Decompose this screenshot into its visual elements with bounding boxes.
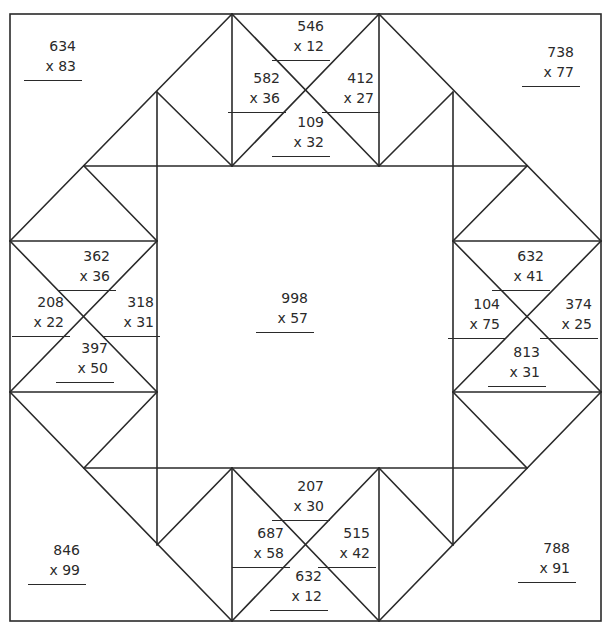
multiplier: x 27 (320, 88, 380, 108)
multiplicand: 208 (10, 292, 70, 312)
multiplicand: 362 (56, 246, 116, 266)
answer-line (24, 80, 82, 81)
problem-right-right: 374x 25 (538, 294, 598, 339)
multiplier: x 42 (316, 543, 376, 563)
answer-line (488, 386, 546, 387)
multiplier: x 31 (100, 312, 160, 332)
problem-bottom-right: 515x 42 (316, 523, 376, 568)
multiplicand: 104 (446, 294, 506, 314)
problem-bottom-bottom: 632x 12 (268, 566, 328, 611)
multiplicand: 207 (270, 476, 330, 496)
answer-line (540, 338, 598, 339)
multiplier: x 36 (56, 266, 116, 286)
multiplicand: 846 (26, 540, 86, 560)
problem-left-left: 208x 22 (10, 292, 70, 337)
answer-line (12, 336, 70, 337)
answer-line (492, 290, 550, 291)
multiplier: x 12 (268, 586, 328, 606)
multiplicand: 634 (22, 36, 82, 56)
answer-line (448, 338, 506, 339)
answer-line (322, 112, 380, 113)
problem-right-bottom: 813x 31 (486, 342, 546, 387)
multiplier: x 22 (10, 312, 70, 332)
multiplier: x 99 (26, 560, 86, 580)
answer-line (102, 336, 160, 337)
multiplicand: 318 (100, 292, 160, 312)
multiplicand: 109 (270, 112, 330, 132)
multiplier: x 12 (270, 36, 330, 56)
answer-line (256, 332, 314, 333)
multiplicand: 632 (268, 566, 328, 586)
problem-top-bottom: 109x 32 (270, 112, 330, 157)
multiplier: x 83 (22, 56, 82, 76)
answer-line (58, 290, 116, 291)
multiplicand: 412 (320, 68, 380, 88)
multiplicand: 687 (230, 523, 290, 543)
multiplicand: 374 (538, 294, 598, 314)
problem-center: 998x 57 (254, 288, 314, 333)
problem-corner-bottom-left: 846x 99 (26, 540, 86, 585)
multiplier: x 91 (516, 558, 576, 578)
problem-left-bottom: 397x 50 (54, 338, 114, 383)
multiplier: x 30 (270, 496, 330, 516)
multiplicand: 998 (254, 288, 314, 308)
problem-bottom-top: 207x 30 (270, 476, 330, 521)
multiplier: x 31 (486, 362, 546, 382)
multiplier: x 32 (270, 132, 330, 152)
problem-left-top: 362x 36 (56, 246, 116, 291)
multiplier: x 25 (538, 314, 598, 334)
multiplicand: 582 (226, 68, 286, 88)
answer-line (272, 60, 330, 61)
multiplier: x 75 (446, 314, 506, 334)
problem-right-top: 632x 41 (490, 246, 550, 291)
answer-line (270, 610, 328, 611)
multiplicand: 632 (490, 246, 550, 266)
multiplicand: 738 (520, 42, 580, 62)
multiplier: x 77 (520, 62, 580, 82)
answer-line (272, 156, 330, 157)
multiplicand: 546 (270, 16, 330, 36)
multiplicand: 515 (316, 523, 376, 543)
multiplier: x 58 (230, 543, 290, 563)
answer-line (522, 86, 580, 87)
answer-line (272, 520, 330, 521)
multiplicand: 397 (54, 338, 114, 358)
problem-top-left: 582x 36 (226, 68, 286, 113)
multiplier: x 57 (254, 308, 314, 328)
problem-top-right: 412x 27 (320, 68, 380, 113)
multiplier: x 50 (54, 358, 114, 378)
multiplier: x 36 (226, 88, 286, 108)
multiplicand: 813 (486, 342, 546, 362)
problem-left-right: 318x 31 (100, 292, 160, 337)
problem-corner-bottom-right: 788x 91 (516, 538, 576, 583)
problem-top-top: 546x 12 (270, 16, 330, 61)
problem-corner-top-right: 738x 77 (520, 42, 580, 87)
answer-line (518, 582, 576, 583)
problem-right-left: 104x 75 (446, 294, 506, 339)
multiplier: x 41 (490, 266, 550, 286)
answer-line (56, 382, 114, 383)
problem-corner-top-left: 634x 83 (22, 36, 82, 81)
answer-line (28, 584, 86, 585)
multiplicand: 788 (516, 538, 576, 558)
problem-bottom-left: 687x 58 (230, 523, 290, 568)
